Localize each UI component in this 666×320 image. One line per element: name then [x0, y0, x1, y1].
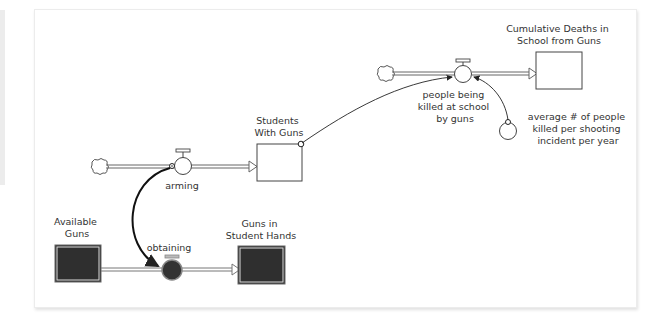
- flow-obtaining[interactable]: obtaining: [101, 242, 240, 280]
- connector-origin-icon: [506, 120, 511, 125]
- stock-label: Guns in Student Hands: [226, 218, 296, 241]
- valve-icon: [455, 59, 472, 83]
- stock-label: Available Guns: [54, 216, 100, 239]
- flow-label-people-killed: people being killed at school by guns: [418, 89, 492, 124]
- flow-label-arming: arming: [165, 180, 199, 191]
- stock-cumulative-deaths[interactable]: Cumulative Deaths in School from Guns: [506, 23, 612, 89]
- cloud-source-icon: [377, 66, 394, 82]
- flow-arming[interactable]: arming: [91, 149, 257, 191]
- converter-label: average # of people killed per shooting …: [528, 111, 628, 146]
- converter-circle-icon: [500, 123, 517, 140]
- stock-students-with-guns[interactable]: Students With Guns: [255, 115, 304, 181]
- flow-label-obtaining: obtaining: [147, 242, 192, 253]
- stock-flow-diagram: arming Students With Guns people being k…: [0, 0, 666, 320]
- stock-label: Students With Guns: [255, 115, 304, 138]
- flow-people-killed[interactable]: people being killed at school by guns: [377, 59, 537, 124]
- converter-avg-people-killed[interactable]: average # of people killed per shooting …: [500, 111, 629, 146]
- cloud-source-icon: [91, 159, 108, 175]
- valve-icon: [162, 255, 182, 280]
- valve-icon: [170, 149, 192, 175]
- stock-label: Cumulative Deaths in School from Guns: [506, 23, 612, 46]
- stock-available-guns[interactable]: Available Guns: [54, 216, 101, 282]
- flow-arrow-icon: [249, 161, 257, 172]
- stock-guns-in-student-hands[interactable]: Guns in Student Hands: [226, 218, 296, 284]
